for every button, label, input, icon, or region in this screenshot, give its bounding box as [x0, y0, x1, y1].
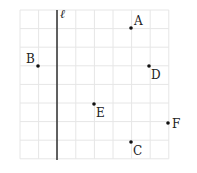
point-b — [36, 64, 40, 68]
point-label-d: D — [151, 68, 161, 82]
grid-lines — [20, 10, 169, 159]
point-label-e: E — [96, 106, 105, 120]
point-a — [129, 26, 133, 30]
point-label-b: B — [26, 52, 35, 66]
point-label-c: C — [133, 144, 142, 158]
points: ABDEFC — [26, 14, 180, 158]
line-l-label: ℓ — [60, 7, 65, 21]
grid-diagram: ℓ ABDEFC — [0, 0, 197, 173]
point-label-a: A — [133, 14, 143, 28]
point-f — [166, 121, 170, 125]
point-label-f: F — [172, 117, 180, 131]
